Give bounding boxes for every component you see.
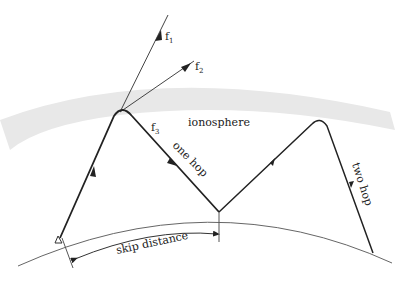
label-ionosphere: ionosphere bbox=[188, 116, 250, 129]
skywave-propagation-diagram: f1 f2 f3 ionosphere one hop two hop skip… bbox=[0, 0, 409, 284]
label-skip-distance: skip distance bbox=[115, 229, 189, 257]
label-f1: f1 bbox=[165, 30, 174, 45]
label-f2: f2 bbox=[195, 60, 204, 75]
ray-one-hop bbox=[60, 110, 219, 238]
label-two-hop: two hop bbox=[349, 161, 375, 208]
label-f3: f3 bbox=[151, 121, 160, 136]
ray-two-hop bbox=[219, 120, 373, 253]
label-one-hop: one hop bbox=[170, 139, 211, 180]
earth-surface bbox=[18, 222, 392, 266]
skip-tick-left bbox=[62, 238, 73, 268]
